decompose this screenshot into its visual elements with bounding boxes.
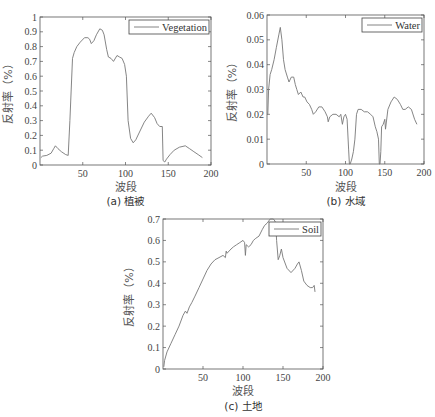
chart-soil: 5010015020000.10.20.30.40.50.60.7Soil波段反… xyxy=(122,214,331,413)
x-tick-label: 100 xyxy=(236,372,251,383)
chart-water: 5010015020000.010.020.030.040.050.06Wate… xyxy=(225,10,432,208)
x-tick-label: 150 xyxy=(276,372,291,383)
legend-label: Soil xyxy=(302,224,319,235)
y-tick-label: 0.6 xyxy=(25,71,38,82)
figure-canvas: 5010015020000.10.20.30.40.50.60.70.80.91… xyxy=(0,0,435,417)
y-tick-label: 0.2 xyxy=(148,321,161,332)
y-axis-label: 反射率（%） xyxy=(225,57,239,122)
y-axis-label: 反射率（%） xyxy=(122,261,136,326)
series-line-soil xyxy=(164,219,315,367)
y-tick-label: 0.4 xyxy=(25,100,38,111)
y-tick-label: 0.7 xyxy=(25,56,38,67)
x-tick-label: 200 xyxy=(417,167,432,178)
y-tick-label: 0.3 xyxy=(25,115,38,126)
y-tick-label: 0.2 xyxy=(25,130,38,141)
y-tick-label: 0.04 xyxy=(247,59,265,70)
y-tick-label: 0.4 xyxy=(148,278,161,289)
x-tick-label: 150 xyxy=(377,167,392,178)
chart-caption: (b) 水域 xyxy=(326,195,365,207)
x-tick-label: 200 xyxy=(316,372,331,383)
chart-caption: (a) 植被 xyxy=(107,195,146,207)
legend-label: Vegetation xyxy=(162,22,208,33)
series-line-water xyxy=(268,27,417,164)
x-axis-label: 波段 xyxy=(335,180,357,194)
y-tick-label: 0.02 xyxy=(247,109,265,120)
y-tick-label: 0.5 xyxy=(148,256,161,267)
y-tick-label: 0.5 xyxy=(25,86,38,97)
x-tick-label: 50 xyxy=(198,372,208,383)
y-tick-label: 0.06 xyxy=(247,10,265,21)
x-tick-label: 50 xyxy=(78,168,88,179)
y-axis-label: 反射率（%） xyxy=(1,58,15,123)
y-tick-label: 0.05 xyxy=(247,34,265,45)
x-axis-label: 波段 xyxy=(115,180,137,194)
y-tick-label: 1 xyxy=(32,12,37,23)
x-tick-label: 150 xyxy=(161,168,176,179)
y-tick-label: 0.1 xyxy=(148,342,161,353)
y-tick-label: 0.7 xyxy=(148,214,161,225)
legend-label: Water xyxy=(395,20,420,31)
y-tick-label: 0 xyxy=(32,160,37,171)
y-tick-label: 0.01 xyxy=(247,134,265,145)
y-tick-label: 0.1 xyxy=(25,145,38,156)
x-tick-label: 50 xyxy=(301,167,311,178)
y-tick-label: 0.6 xyxy=(148,235,161,246)
chart-caption: (c) 土地 xyxy=(224,400,262,412)
plot-frame xyxy=(163,219,323,369)
y-tick-label: 0.03 xyxy=(247,84,265,95)
x-tick-label: 200 xyxy=(204,168,219,179)
plot-frame xyxy=(40,17,211,165)
series-line-vegetation xyxy=(41,29,203,162)
x-tick-label: 100 xyxy=(118,168,133,179)
y-tick-label: 0.9 xyxy=(25,26,38,37)
y-tick-label: 0 xyxy=(155,364,160,375)
x-axis-label: 波段 xyxy=(232,384,254,398)
chart-vegetation: 5010015020000.10.20.30.40.50.60.70.80.91… xyxy=(1,12,219,208)
y-tick-label: 0 xyxy=(259,159,264,170)
y-tick-label: 0.3 xyxy=(148,299,161,310)
y-tick-label: 0.8 xyxy=(25,41,38,52)
plot-frame xyxy=(267,15,424,164)
x-tick-label: 100 xyxy=(338,167,353,178)
